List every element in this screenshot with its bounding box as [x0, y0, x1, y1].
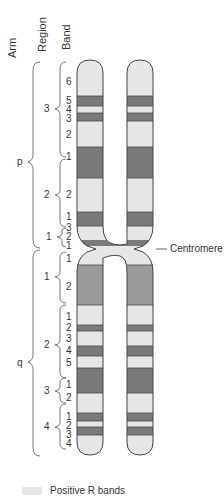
region-q1-label: 1: [44, 271, 50, 282]
region-p3-label: 3: [44, 103, 50, 114]
svg-text:4: 4: [66, 345, 72, 356]
header-arm: Arm: [6, 38, 18, 58]
svg-text:1: 1: [66, 253, 72, 264]
region-q3-label: 3: [44, 385, 50, 396]
region-q2-label: 2: [44, 339, 50, 350]
svg-text:1: 1: [66, 151, 72, 162]
chromosome-bands: [70, 55, 160, 460]
svg-text:1: 1: [66, 311, 72, 322]
region-braces: [55, 62, 66, 449]
svg-text:2: 2: [66, 392, 72, 403]
svg-text:2: 2: [66, 189, 72, 200]
legend: Positive R bands: [22, 485, 125, 496]
legend-swatch-light: [22, 487, 42, 495]
svg-text:1: 1: [66, 379, 72, 390]
region-p2-label: 2: [44, 189, 50, 200]
header-region: Region: [36, 17, 48, 52]
svg-text:1: 1: [66, 211, 72, 222]
centromere-label: Centromere: [170, 243, 223, 254]
svg-text:6: 6: [66, 76, 72, 87]
chromosome-diagram: Arm Region Band: [0, 0, 224, 497]
svg-text:4: 4: [66, 438, 72, 449]
header-band: Band: [60, 24, 72, 50]
svg-text:2: 2: [66, 322, 72, 333]
svg-text:3: 3: [66, 113, 72, 124]
svg-text:2: 2: [66, 281, 72, 292]
arm-q-label: q: [17, 357, 23, 368]
region-p1-label: 1: [46, 231, 52, 242]
region-q4-label: 4: [44, 421, 50, 432]
svg-text:5: 5: [66, 357, 72, 368]
band-labels: 6 5 4 3 2 1 2 1 3 2 1 1 2 1 2 3 4 5 1 2 …: [66, 76, 72, 449]
svg-text:3: 3: [66, 333, 72, 344]
svg-text:1: 1: [66, 240, 72, 251]
svg-text:2: 2: [66, 129, 72, 140]
legend-label: Positive R bands: [50, 485, 125, 496]
arm-p-label: p: [17, 156, 23, 167]
arm-braces: [28, 62, 40, 456]
